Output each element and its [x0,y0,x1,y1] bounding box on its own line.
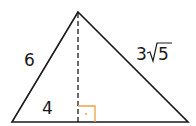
label-right-radicand: 5 [158,44,169,64]
label-left-side: 6 [24,50,35,70]
triangle-diagram: 6 4 3 5 [0,0,196,126]
label-right-coef: 3 [136,44,147,64]
right-angle-dot [85,113,87,115]
label-right-side: 3 5 [136,43,172,64]
triangle [12,12,188,122]
label-base-segment: 4 [42,98,53,118]
